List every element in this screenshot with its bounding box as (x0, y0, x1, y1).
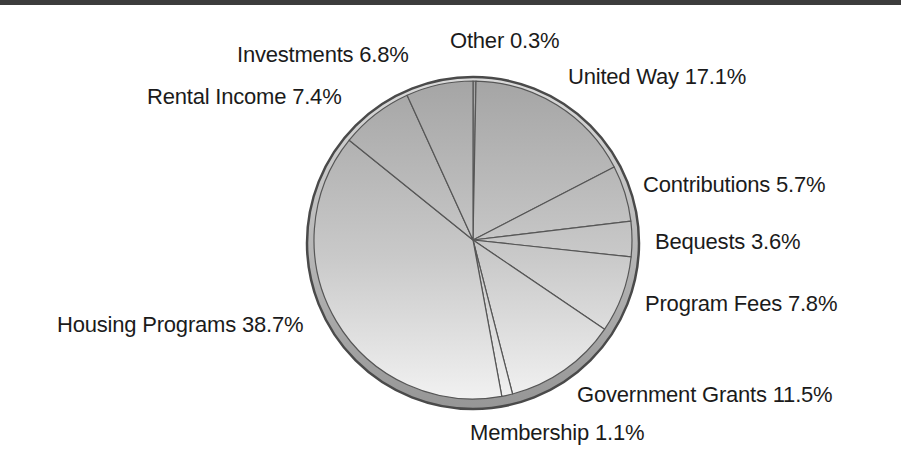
pie-label-membership: Membership 1.1% (470, 420, 644, 445)
pie-label-investments: Investments 6.8% (237, 42, 409, 67)
pie-label-government-grants: Government Grants 11.5% (577, 382, 832, 407)
pie-label-united-way: United Way 17.1% (568, 64, 746, 89)
pie-label-program-fees: Program Fees 7.8% (645, 291, 837, 316)
pie-label-housing-programs: Housing Programs 38.7% (57, 312, 303, 337)
pie-label-rental-income: Rental Income 7.4% (147, 84, 342, 109)
pie-label-contributions: Contributions 5.7% (643, 172, 825, 197)
pie-label-other: Other 0.3% (450, 28, 559, 53)
scanned-page: Other 0.3% United Way 17.1% Contribution… (0, 0, 901, 476)
pie-label-bequests: Bequests 3.6% (655, 229, 800, 254)
